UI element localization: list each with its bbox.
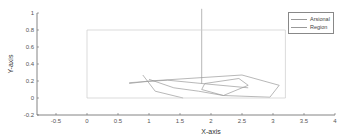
- series-line-arsional: [129, 80, 248, 88]
- x-tick-label: 0: [85, 118, 89, 124]
- y-tick-label: 1: [31, 10, 35, 16]
- x-tick-label: 3.5: [300, 118, 309, 124]
- series-line-arsional: [143, 75, 183, 98]
- legend-label: Arsional: [310, 16, 330, 22]
- x-tick-label: -0.5: [51, 118, 62, 124]
- legend-label: Region: [310, 24, 327, 30]
- x-axis-label: X-axis: [201, 128, 221, 135]
- y-tick-label: 0: [31, 95, 35, 101]
- legend-line-icon: [291, 27, 307, 28]
- legend-line-icon: [291, 19, 307, 20]
- legend-item-arsional: Arsional: [291, 15, 330, 23]
- y-tick-label: 0.8: [26, 27, 35, 33]
- x-tick-label: 1: [147, 118, 151, 124]
- x-tick-label: 3: [271, 118, 275, 124]
- y-tick-label: -0.2: [24, 112, 35, 118]
- y-tick-label: 0.2: [26, 78, 35, 84]
- x-tick-label: 4: [333, 118, 337, 124]
- legend-item-region: Region: [291, 23, 327, 31]
- x-tick-label: 2.5: [238, 118, 247, 124]
- x-tick-label: 1.5: [176, 118, 185, 124]
- y-tick-label: 0.4: [26, 61, 35, 67]
- legend: Arsional Region: [288, 12, 334, 34]
- y-tick-label: 0.6: [26, 44, 35, 50]
- series-line-region: [87, 30, 285, 98]
- plot-area: [87, 9, 285, 98]
- y-axis-label: Y-axis: [7, 54, 14, 73]
- x-tick-label: 2: [209, 118, 213, 124]
- x-tick-label: 0.5: [114, 118, 123, 124]
